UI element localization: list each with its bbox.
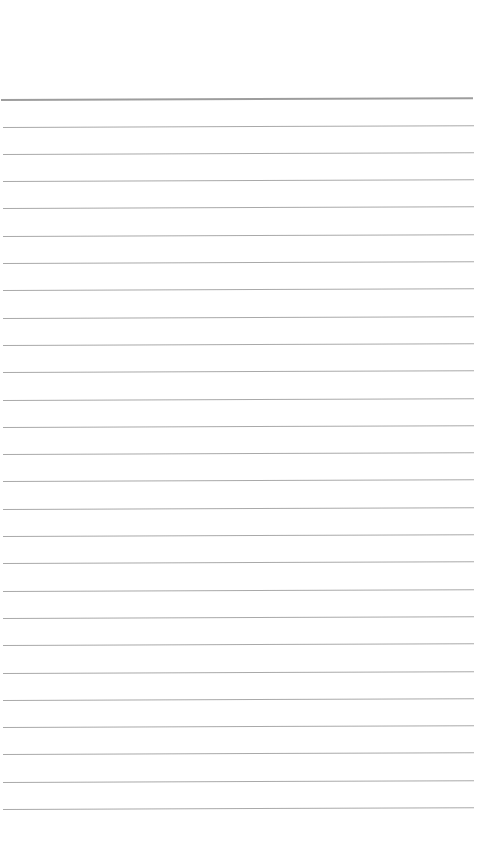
ruled-line (3, 671, 474, 674)
ruled-line (3, 616, 474, 619)
ruled-line (3, 452, 474, 455)
ruled-line (3, 289, 474, 292)
lined-paper-page (0, 0, 504, 863)
ruled-line (3, 398, 474, 401)
ruled-line (3, 179, 474, 182)
ruled-line (3, 562, 474, 565)
ruled-line (3, 753, 474, 756)
ruled-line (3, 644, 474, 647)
ruled-line (3, 234, 474, 237)
ruled-line (3, 507, 474, 510)
ruled-line (3, 152, 474, 155)
ruled-line (3, 425, 474, 428)
ruled-line (3, 807, 474, 810)
ruled-line (3, 725, 474, 728)
ruled-line (3, 261, 474, 264)
ruled-line (3, 343, 474, 346)
ruled-line (3, 125, 474, 128)
ruled-line (3, 780, 474, 783)
ruled-line (3, 534, 474, 537)
header-rule-line (1, 97, 473, 101)
ruled-line (3, 316, 474, 319)
ruled-line (3, 480, 474, 483)
ruled-line (3, 371, 474, 374)
ruled-line (3, 698, 474, 701)
ruled-line (3, 207, 474, 210)
ruled-line (3, 589, 474, 592)
